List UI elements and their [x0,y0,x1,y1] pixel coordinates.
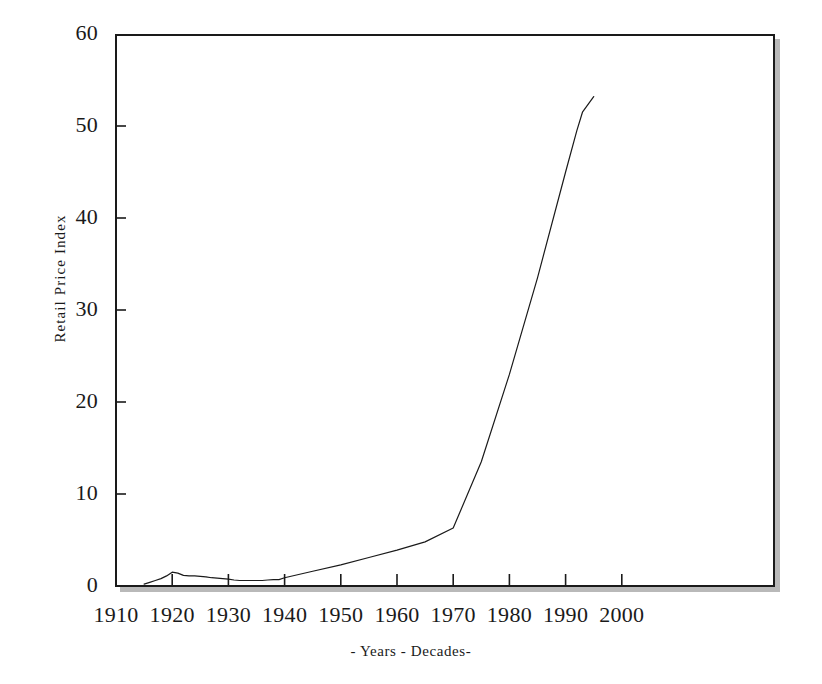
y-axis-title: Retail Price Index [52,179,69,379]
y-tick-label: 20 [30,390,98,412]
x-axis-title: - Years - Decades- [0,643,822,660]
y-tick-label: 10 [30,482,98,504]
y-tick-label: 50 [30,114,98,136]
y-tick-label: 60 [30,22,98,44]
x-tick-label: 2000 [577,604,667,626]
chart-container: 0102030405060 19101920193019401950196019… [0,0,822,684]
y-tick-label: 0 [30,574,98,596]
plot-frame [115,34,775,587]
